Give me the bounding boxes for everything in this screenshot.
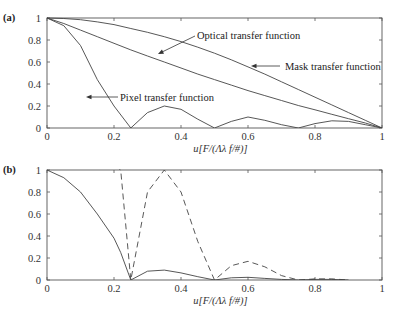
x-axis-label: u[F/(Λλ f/#)] (193, 295, 247, 307)
series-solid (47, 170, 349, 280)
annotation-mask: Mask transfer function (285, 61, 381, 72)
panel-b: 00.20.40.60.8100.20.40.60.81(b)u[F/(Λλ f… (3, 164, 385, 307)
plot-frame (47, 170, 382, 280)
arrow-head-icon (86, 95, 92, 100)
panel-a: 00.20.40.60.8100.20.40.60.81(a)u[F/(Λλ f… (3, 12, 385, 155)
annotation-optical: Optical transfer function (197, 30, 301, 41)
x-tick-label: 0.4 (174, 283, 188, 294)
series-dashed (116, 166, 349, 280)
figure: 00.20.40.60.8100.20.40.60.81(a)u[F/(Λλ f… (0, 0, 395, 320)
x-tick-label: 0.8 (308, 283, 321, 294)
x-tick-label: 0.6 (241, 131, 254, 142)
y-tick-label: 0.8 (28, 35, 41, 46)
x-tick-label: 0.2 (107, 283, 120, 294)
panel-label: (b) (3, 164, 16, 176)
annotation-pixel: Pixel transfer function (120, 92, 215, 103)
y-tick-label: 0.6 (28, 209, 41, 220)
y-tick-label: 0.4 (28, 79, 42, 90)
y-tick-label: 0.2 (28, 253, 41, 264)
x-tick-label: 0.2 (107, 131, 120, 142)
x-tick-label: 0 (44, 131, 49, 142)
x-tick-label: 0.8 (308, 131, 321, 142)
panel-label: (a) (3, 12, 16, 24)
x-tick-label: 0.4 (174, 131, 188, 142)
y-tick-label: 0.2 (28, 101, 41, 112)
y-tick-label: 0.4 (28, 231, 42, 242)
x-tick-label: 0 (44, 283, 49, 294)
x-tick-label: 1 (379, 131, 384, 142)
y-tick-label: 1 (36, 165, 41, 176)
x-tick-label: 0.6 (241, 283, 254, 294)
y-tick-label: 0.6 (28, 57, 41, 68)
arrow-head-icon (251, 64, 257, 69)
x-axis-label: u[F/(Λλ f/#)] (193, 143, 247, 155)
y-tick-label: 0 (36, 123, 41, 134)
y-tick-label: 1 (36, 13, 41, 24)
x-tick-label: 1 (379, 283, 384, 294)
y-tick-label: 0.8 (28, 187, 41, 198)
y-tick-label: 0 (36, 275, 41, 286)
